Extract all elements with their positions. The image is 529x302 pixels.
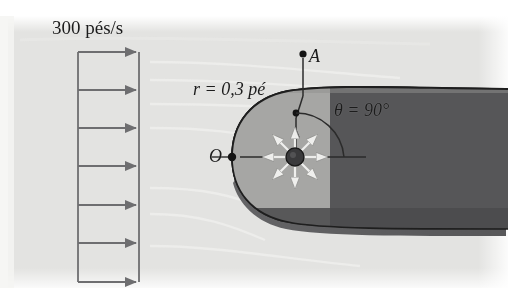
diagram-canvas: [0, 0, 529, 302]
point-o-label: O: [209, 147, 222, 165]
point-a-marker: [299, 50, 306, 57]
theta-angle-label: θ = 90°: [334, 101, 389, 119]
point-a-label: A: [309, 47, 320, 65]
stagnation-point-marker: [228, 153, 236, 161]
freestream-velocity-label: 300 pés/s: [52, 18, 123, 37]
flow-diagram-figure: 300 pés/s r = 0,3 pé θ = 90° A O: [0, 0, 529, 302]
radius-label: r = 0,3 pé: [193, 80, 265, 98]
